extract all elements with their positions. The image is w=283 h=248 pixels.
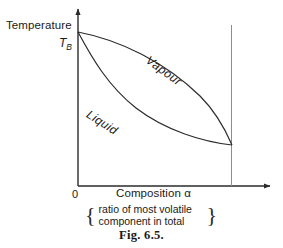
origin-label: 0 xyxy=(72,189,78,200)
x-axis-label: Composition α xyxy=(116,188,191,200)
composition-definition-note: { ratio of most volatile component in to… xyxy=(85,204,217,227)
figure-caption: Fig. 6.5. xyxy=(0,229,283,242)
right-brace: } xyxy=(206,204,217,227)
left-brace: { xyxy=(85,204,96,227)
figure-6-5: Temperature TB 0 Composition α Vapour Li… xyxy=(0,0,283,248)
boiling-point-tick-label: TB xyxy=(59,37,72,52)
y-axis-label: Temperature xyxy=(6,20,72,32)
note-line-2: component in total xyxy=(99,216,204,228)
tb-subscript: B xyxy=(66,42,72,52)
note-text: ratio of most volatile component in tota… xyxy=(96,204,207,227)
note-line-1: ratio of most volatile xyxy=(99,204,204,216)
